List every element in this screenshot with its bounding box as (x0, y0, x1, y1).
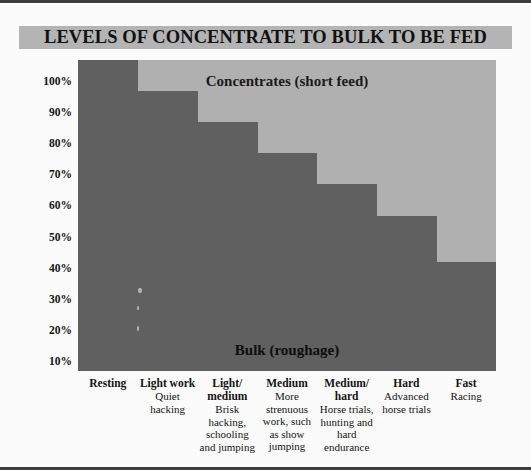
y-axis-tick-label: 100% (20, 75, 72, 87)
scan-artifact (137, 326, 139, 331)
y-axis-tick-label: 10% (20, 355, 72, 367)
x-axis-category-1: Resting (78, 377, 138, 390)
bulk-bar-segment (257, 153, 317, 371)
series-label-concentrates: Concentrates (short feed) (78, 73, 496, 90)
category-description: Quiethacking (138, 390, 198, 415)
x-axis-category-6: HardAdvancedhorse trials (377, 377, 437, 415)
category-title: Light/medium (197, 377, 257, 403)
category-description: Morestrenuouswork, suchas showjumping (257, 390, 317, 453)
x-axis-category-5: Medium/hardHorse trials,hunting andharde… (317, 377, 377, 453)
category-title: Medium/hard (317, 377, 377, 403)
y-axis-tick-label: 80% (20, 137, 72, 149)
y-axis-tick-label: 60% (20, 199, 72, 211)
x-axis-category-2: Light workQuiethacking (138, 377, 198, 415)
x-axis-category-4: MediumMorestrenuouswork, suchas showjump… (257, 377, 317, 453)
bulk-bar-segment (197, 122, 257, 371)
x-axis-category-3: Light/mediumBriskhacking,schoolingand ju… (197, 377, 257, 453)
y-axis-tick-label: 50% (20, 231, 72, 243)
plot-area: Concentrates (short feed) Bulk (roughage… (78, 60, 496, 371)
top-divider-highlight (0, 3, 531, 5)
category-description: Horse trials,hunting andhardendurance (317, 403, 377, 453)
chart-title: LEVELS OF CONCENTRATE TO BULK TO BE FED (19, 26, 512, 49)
chart-figure: LEVELS OF CONCENTRATE TO BULK TO BE FED … (0, 0, 531, 470)
y-axis-tick-label: 30% (20, 293, 72, 305)
category-title: Fast (436, 377, 496, 390)
category-title: Light work (138, 377, 198, 390)
bulk-bar-segment (317, 184, 377, 371)
category-title: Medium (257, 377, 317, 390)
category-title: Hard (377, 377, 437, 390)
bulk-bar-segment (377, 216, 437, 372)
bulk-bar-segment (138, 91, 198, 371)
category-description: Racing (436, 390, 496, 403)
chart-title-banner: LEVELS OF CONCENTRATE TO BULK TO BE FED (19, 26, 512, 49)
y-axis-tick-label: 40% (20, 262, 72, 274)
y-axis-tick-label: 70% (20, 168, 72, 180)
bulk-bar-segment (78, 60, 138, 371)
bulk-bar-segment (436, 262, 496, 371)
category-description: Advancedhorse trials (377, 390, 437, 415)
scan-artifact (137, 306, 139, 310)
x-axis-category-7: FastRacing (436, 377, 496, 403)
y-axis-tick-label: 90% (20, 106, 72, 118)
x-axis: RestingLight workQuiethackingLight/mediu… (78, 377, 496, 465)
category-description: Briskhacking,schoolingand jumping (197, 403, 257, 453)
category-title: Resting (78, 377, 138, 390)
y-axis: 100%90%80%70%60%50%40%30%20%10% (20, 60, 72, 371)
scan-artifact (138, 288, 142, 293)
y-axis-tick-label: 20% (20, 324, 72, 336)
